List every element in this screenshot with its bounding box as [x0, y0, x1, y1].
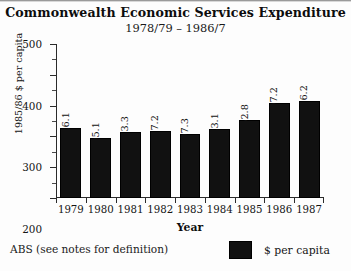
y-tick-minor: [52, 152, 56, 153]
x-tick-label: 1979: [58, 204, 84, 215]
x-tick-label: 1981: [117, 204, 143, 215]
bar-slot: 213.3: [120, 44, 141, 198]
figure-top-rule: [0, 0, 351, 2]
x-tick: [86, 198, 87, 203]
bar-value-label: 217.2: [149, 115, 160, 143]
bar-slot: 316.2: [299, 44, 320, 198]
x-tick: [175, 198, 176, 203]
bar-value-label: 316.2: [298, 85, 309, 113]
bar-value-label: 213.3: [119, 116, 130, 144]
x-axis-title: Year: [56, 221, 324, 234]
chart-title: Commonwealth Economic Services Expenditu…: [0, 5, 351, 20]
y-tick-label: 500: [22, 38, 42, 50]
chart-figure: Commonwealth Economic Services Expenditu…: [0, 0, 351, 271]
x-tick: [294, 198, 295, 203]
y-tick-minor: [52, 59, 56, 60]
x-tick-label: 1984: [207, 204, 233, 215]
bar-slot: 207.3: [180, 44, 201, 198]
x-tick: [235, 198, 236, 203]
bar-slot: 217.2: [150, 44, 171, 198]
y-tick-minor: [52, 121, 56, 122]
bar: [299, 101, 320, 198]
x-tick: [205, 198, 206, 203]
legend-swatch-per-capita: [229, 241, 252, 259]
bar-value-label: 223.1: [209, 113, 220, 141]
y-tick-major: 300: [50, 106, 56, 107]
y-axis-title: 1985/86 $ per capita: [13, 14, 24, 154]
bar-slot: 307.2: [269, 44, 290, 198]
bar-value-label: 195.1: [90, 122, 101, 150]
bar-slot: 223.1: [209, 44, 230, 198]
chart-footnote: ABS (see notes for definition): [10, 243, 168, 255]
x-tick-label: 1982: [147, 204, 173, 215]
bar-value-label: 207.3: [179, 118, 190, 146]
y-tick-major: 200: [50, 136, 56, 137]
y-tick-label: 400: [22, 100, 42, 112]
x-tick-label: 1980: [88, 204, 114, 215]
bar-value-label: 226.1: [60, 113, 71, 141]
bar-value-label: 252.8: [239, 104, 250, 132]
x-tick-label: 1985: [237, 204, 263, 215]
bar-slot: 195.1: [90, 44, 111, 198]
y-tick-major: 400: [50, 75, 56, 76]
x-tick-label: 1987: [296, 204, 322, 215]
x-tick: [56, 198, 57, 203]
y-tick-minor: [52, 183, 56, 184]
bar-slot: 226.1: [60, 44, 81, 198]
bar-value-label: 307.2: [268, 88, 279, 116]
chart-subtitle: 1978/79 – 1986/7: [0, 21, 351, 35]
y-tick-label: 200: [22, 223, 42, 235]
chart-legend: $ per capita: [229, 241, 330, 259]
y-axis-line: [56, 44, 57, 198]
x-tick-label: 1986: [266, 204, 292, 215]
y-tick-label: 300: [22, 161, 42, 173]
y-tick-major: 100: [50, 167, 56, 168]
bar-slot: 252.8: [239, 44, 260, 198]
y-tick-minor: [52, 90, 56, 91]
x-tick: [323, 198, 324, 203]
x-tick-label: 1983: [177, 204, 203, 215]
bar: [269, 103, 290, 198]
legend-label-per-capita: $ per capita: [264, 244, 330, 257]
y-tick-major: 500: [50, 44, 56, 45]
x-tick: [264, 198, 265, 203]
x-tick: [116, 198, 117, 203]
plot-area: 0100200300400500 226.1195.1213.3217.2207…: [56, 44, 324, 198]
x-tick: [145, 198, 146, 203]
